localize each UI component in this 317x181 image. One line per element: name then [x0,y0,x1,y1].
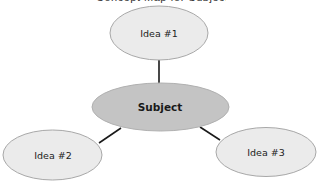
idea-2-label: Idea #2 [34,150,72,161]
connector-subject-idea3 [200,127,220,140]
idea-1-label: Idea #1 [140,28,178,39]
subject-label: Subject [138,101,183,113]
idea-3-label: Idea #3 [247,147,285,158]
mind-map-diagram: Concept Map for Subject Idea #1 Subject … [0,0,317,181]
connector-subject-idea2 [99,128,121,143]
